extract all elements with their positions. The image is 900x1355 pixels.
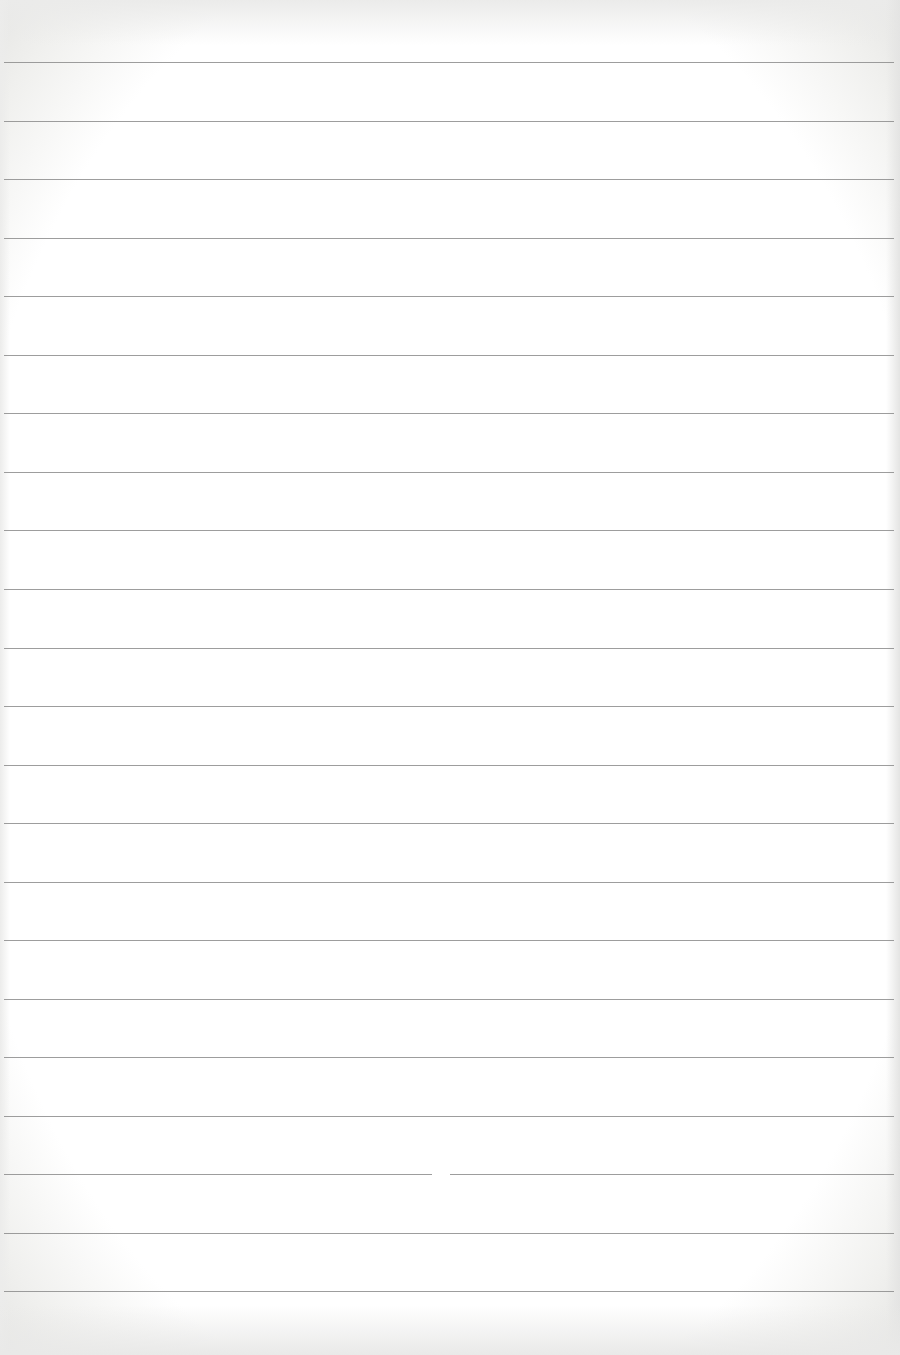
ruled-line [4,940,894,941]
paper-shadow-bottom [0,1305,900,1355]
paper-shadow-top [0,0,900,45]
ruled-line [4,1291,894,1292]
paper-shadow-left [0,0,10,1355]
ruled-line [4,648,894,649]
ruled-line [4,355,894,356]
lined-paper-sheet [0,0,900,1355]
ruled-line [4,999,894,1000]
ruled-line [4,589,894,590]
ruled-line [4,823,894,824]
ruled-line [4,179,894,180]
ruled-line [4,296,894,297]
ruled-line [4,121,894,122]
ruled-line [4,765,894,766]
ruled-line [4,238,894,239]
ruled-line [4,530,894,531]
ruled-line [4,1233,894,1234]
ruled-line [4,413,894,414]
ruled-line [4,1116,894,1117]
paper-shadow-right [886,0,900,1355]
ruled-line [4,706,894,707]
ruled-line [4,882,894,883]
ruled-line [4,472,894,473]
ruled-line [4,62,894,63]
ruled-line-gap [432,1173,450,1176]
ruled-line [4,1057,894,1058]
